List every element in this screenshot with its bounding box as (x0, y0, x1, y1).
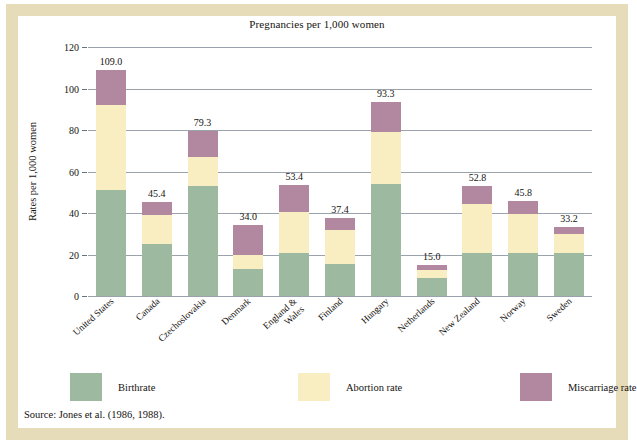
bar-group[interactable]: 45.4Canada (142, 47, 172, 296)
source-note: Source: Jones et al. (1986, 1988). (24, 409, 165, 420)
bar-segment-miscarriage-rate[interactable] (96, 70, 126, 105)
gridline (88, 296, 592, 297)
bar-group[interactable]: 53.4England & Wales (279, 47, 309, 296)
y-tick-mark (82, 213, 87, 214)
legend-label: Abortion rate (346, 382, 402, 393)
x-axis-category-label: Hungary (359, 296, 391, 326)
y-axis-title: Rates per 1,000 women (26, 47, 40, 296)
bar-group[interactable]: 33.2Sweden (554, 47, 584, 296)
y-tick-label: 40 (69, 208, 79, 219)
y-tick-mark (82, 89, 87, 90)
y-tick-mark (82, 296, 87, 297)
bar-segment-abortion-rate[interactable] (462, 204, 492, 254)
bar-segment-birthrate[interactable] (279, 253, 309, 296)
bar-segment-birthrate[interactable] (233, 269, 263, 296)
y-tick-label: 60 (69, 166, 79, 177)
bar-group[interactable]: 52.8New Zealand (462, 47, 492, 296)
x-axis-category-label: Sweden (545, 296, 575, 324)
bar-total-label: 45.4 (148, 188, 166, 199)
legend-label: Birthrate (118, 382, 155, 393)
chart-legend: BirthrateAbortion rateMiscarriage rate (70, 372, 590, 402)
bar-segment-birthrate[interactable] (371, 184, 401, 296)
bar-group[interactable]: 109.0United States (96, 47, 126, 296)
y-tick-label: 80 (69, 125, 79, 136)
bar-segment-abortion-rate[interactable] (142, 215, 172, 244)
bar-total-label: 45.8 (515, 187, 533, 198)
bar-segment-abortion-rate[interactable] (233, 255, 263, 270)
bar-segment-miscarriage-rate[interactable] (554, 227, 584, 234)
y-tick-mark (82, 47, 87, 48)
bar-total-label: 52.8 (469, 172, 487, 183)
bar-segment-miscarriage-rate[interactable] (325, 218, 355, 229)
bar-group[interactable]: 93.3Hungary (371, 47, 401, 296)
bar-segment-abortion-rate[interactable] (96, 105, 126, 190)
bar-total-label: 37.4 (331, 204, 349, 215)
bar-segment-birthrate[interactable] (417, 278, 447, 296)
bar-segment-miscarriage-rate[interactable] (279, 185, 309, 212)
legend-label: Miscarriage rate (568, 382, 637, 393)
x-axis-category-label: New Zealand (438, 296, 483, 338)
bar-segment-birthrate[interactable] (142, 244, 172, 296)
bar-segment-miscarriage-rate[interactable] (188, 131, 218, 157)
legend-swatch-icon (298, 373, 330, 401)
bar-total-label: 109.0 (100, 56, 123, 67)
bar-total-label: 15.0 (423, 251, 441, 262)
bar-segment-miscarriage-rate[interactable] (233, 225, 263, 254)
plot-area: 020406080100120 109.0United States45.4Ca… (88, 47, 592, 296)
bar-segment-birthrate[interactable] (96, 190, 126, 296)
y-tick-label: 20 (69, 249, 79, 260)
bar-segment-miscarriage-rate[interactable] (417, 265, 447, 270)
bar-segment-abortion-rate[interactable] (279, 212, 309, 254)
bar-segment-miscarriage-rate[interactable] (508, 201, 538, 214)
legend-item[interactable]: Birthrate (70, 372, 155, 402)
bar-segment-birthrate[interactable] (508, 253, 538, 296)
bar-total-label: 93.3 (377, 88, 395, 99)
y-tick-label: 120 (64, 42, 79, 53)
x-axis-category-label: Netherlands (396, 296, 437, 335)
bar-segment-miscarriage-rate[interactable] (142, 202, 172, 215)
bar-total-label: 79.3 (194, 117, 212, 128)
bar-segment-birthrate[interactable] (325, 264, 355, 296)
bar-group[interactable]: 79.3Czechoslovakia (188, 47, 218, 296)
x-axis-category-label: England & Wales (261, 296, 306, 340)
x-axis-category-label: Denmark (220, 296, 254, 328)
y-tick-mark (82, 172, 87, 173)
bar-group[interactable]: 34.0Denmark (233, 47, 263, 296)
x-axis-category-label: Czechoslovakia (156, 296, 208, 344)
x-axis-category-label: United States (71, 296, 116, 338)
bar-segment-birthrate[interactable] (554, 253, 584, 296)
bar-segment-miscarriage-rate[interactable] (371, 102, 401, 132)
legend-item[interactable]: Abortion rate (298, 372, 402, 402)
bar-segment-abortion-rate[interactable] (371, 132, 401, 184)
legend-swatch-icon (70, 373, 102, 401)
bar-total-label: 33.2 (560, 213, 578, 224)
bar-total-label: 53.4 (285, 171, 303, 182)
legend-item[interactable]: Miscarriage rate (520, 372, 637, 402)
bar-total-label: 34.0 (240, 211, 258, 222)
y-tick-mark (82, 255, 87, 256)
x-axis-category-label: Norway (499, 296, 529, 325)
x-axis-category-label: Canada (134, 296, 162, 323)
bar-segment-abortion-rate[interactable] (554, 234, 584, 254)
chart-title: Pregnancies per 1,000 women (18, 18, 616, 30)
y-tick-mark (82, 130, 87, 131)
figure-content: Pregnancies per 1,000 women Rates per 1,… (18, 16, 616, 428)
bar-segment-birthrate[interactable] (188, 186, 218, 296)
y-tick-label: 100 (64, 83, 79, 94)
x-axis-category-label: Finland (316, 296, 345, 324)
bar-segment-birthrate[interactable] (462, 253, 492, 296)
legend-swatch-icon (520, 373, 552, 401)
bar-group[interactable]: 45.8Norway (508, 47, 538, 296)
bar-segment-abortion-rate[interactable] (325, 230, 355, 264)
y-axis-title-text: Rates per 1,000 women (28, 122, 39, 221)
y-tick-label: 0 (74, 291, 79, 302)
bar-segment-abortion-rate[interactable] (188, 157, 218, 186)
bar-group[interactable]: 15.0Netherlands (417, 47, 447, 296)
bar-segment-abortion-rate[interactable] (417, 270, 447, 278)
bar-segment-abortion-rate[interactable] (508, 214, 538, 253)
bar-group[interactable]: 37.4Finland (325, 47, 355, 296)
bar-segment-miscarriage-rate[interactable] (462, 186, 492, 203)
